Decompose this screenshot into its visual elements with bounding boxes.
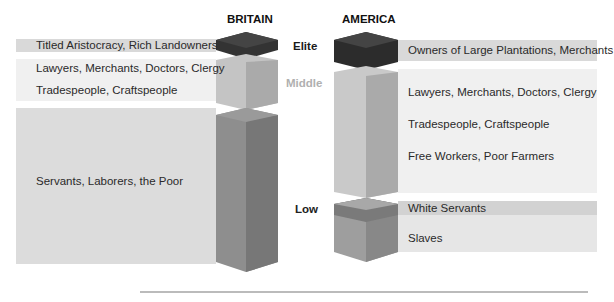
britain-low-item: Servants, Laborers, the Poor (36, 175, 183, 187)
america-middle-item: Tradespeople, Craftspeople (408, 118, 550, 130)
america-header: AMERICA (342, 13, 396, 25)
middle-label: Middle (286, 77, 322, 89)
low-label: Low (295, 203, 318, 215)
america-elite-item: Owners of Large Plantations, Merchants (408, 44, 613, 56)
britain-elite-item: Titled Aristocracy, Rich Landowners (36, 39, 218, 51)
america-middle-item: Lawyers, Merchants, Doctors, Clergy (408, 86, 597, 98)
america-middle-item: Free Workers, Poor Farmers (408, 150, 554, 162)
elite-label: Elite (293, 40, 317, 52)
america-low-item: White Servants (408, 202, 486, 214)
britain-middle-item: Tradespeople, Craftspeople (36, 84, 178, 96)
america-low-item: Slaves (408, 232, 443, 244)
britain-header: BRITAIN (227, 13, 273, 25)
britain-middle-item: Lawyers, Merchants, Doctors, Clergy (36, 62, 225, 74)
